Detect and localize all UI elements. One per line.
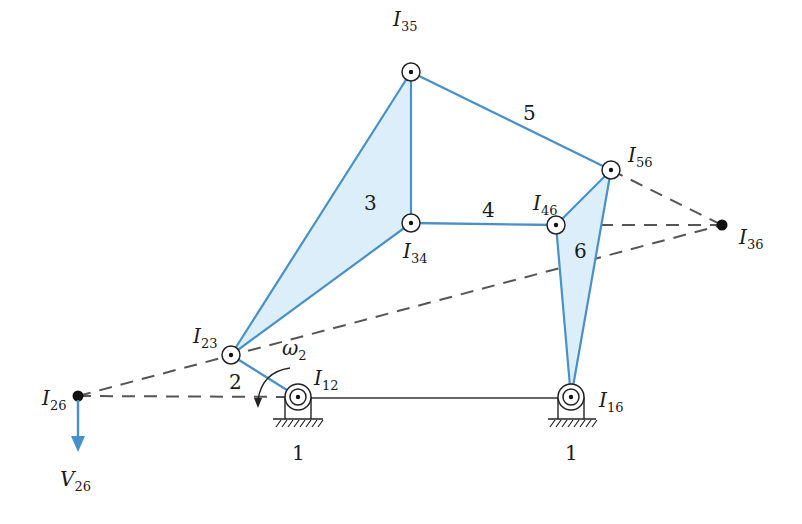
label-omega2: ω2	[282, 336, 307, 363]
linkage-diagram: I35 I56 I46 I36 I34 I23 I12 I16 I26 V26 …	[0, 0, 802, 524]
ground-pivot-i16	[548, 384, 597, 427]
pin-i35	[402, 63, 420, 81]
pin-i34	[402, 214, 420, 232]
dashed-line-i56-i36	[611, 170, 722, 225]
label-i12: I12	[313, 366, 338, 393]
dashed-line-i26-i12	[78, 396, 298, 397]
link-3	[231, 72, 411, 355]
ground-label-right: 1	[565, 441, 578, 465]
label-i46: I46	[532, 191, 557, 218]
link-label-5: 5	[523, 101, 536, 125]
label-i56: I56	[627, 143, 652, 170]
pin-i23	[222, 346, 240, 364]
label-i26: I26	[41, 386, 66, 413]
link-label-6: 6	[574, 239, 587, 263]
label-i35: I35	[392, 7, 417, 34]
label-i36: I36	[738, 225, 763, 252]
link-5	[411, 72, 611, 170]
label-i23: I23	[192, 324, 217, 351]
label-i34: I34	[402, 239, 427, 266]
link-label-3: 3	[364, 191, 377, 215]
ground-pivot-i12	[273, 384, 323, 427]
point-i26	[73, 391, 84, 402]
label-v26: V26	[60, 467, 91, 494]
point-i36	[717, 220, 728, 231]
link-label-4: 4	[482, 198, 495, 222]
label-i16: I16	[598, 388, 623, 415]
pin-i56	[602, 161, 620, 179]
link-4	[411, 223, 556, 225]
dashed-line-i26-i36	[78, 225, 722, 396]
ground-label-left: 1	[292, 441, 305, 465]
pin-i46	[547, 216, 565, 234]
link-label-2: 2	[229, 370, 242, 394]
link-6	[556, 170, 611, 398]
velocity-arrow-v26	[71, 400, 85, 452]
